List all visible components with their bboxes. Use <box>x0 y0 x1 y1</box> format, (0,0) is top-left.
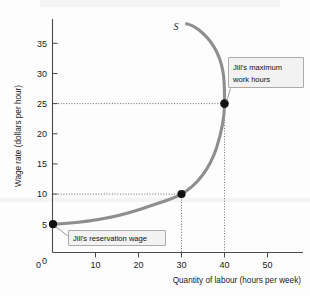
y-tick-label-5: 5 <box>42 220 47 230</box>
reservation-wage-callout: Jill's reservation wage <box>56 227 166 246</box>
reservation-wage-callout-line1: Jill's reservation wage <box>73 234 147 243</box>
maximum-work-hours-callout: Jill's maximum work hours <box>227 58 304 102</box>
y-tick-label-20: 20 <box>37 129 47 139</box>
x-tick-label-10: 10 <box>90 260 100 270</box>
labour-supply-curve <box>53 24 225 224</box>
x-tick-label-20: 20 <box>133 260 143 270</box>
y-tick-label-35: 35 <box>37 39 47 49</box>
y-tick-marks <box>53 43 58 224</box>
x-axis-title: Quantity of labour (hours per week) <box>173 276 302 285</box>
maximum-hours-point <box>220 99 229 108</box>
y-tick-label-30: 30 <box>37 69 47 79</box>
y-axis-title: Wage rate (dollars per hour) <box>14 85 23 187</box>
x-tick-label-0: 0 <box>36 260 41 270</box>
x-tick-label-30: 30 <box>176 260 186 270</box>
supply-curve-chart: 35 30 25 20 15 10 5 0 0 10 20 30 40 50 Q… <box>0 0 310 296</box>
y-tick-label-10: 10 <box>37 189 47 199</box>
maximum-hours-leader-line <box>227 89 231 102</box>
axes-group <box>53 19 304 253</box>
chart-canvas: 35 30 25 20 15 10 5 0 0 10 20 30 40 50 Q… <box>0 0 310 296</box>
x-tick-labels: 0 10 20 30 40 50 <box>36 260 273 270</box>
x-tick-label-50: 50 <box>262 260 272 270</box>
scan-artifact <box>40 0 280 7</box>
x-tick-label-40: 40 <box>219 260 229 270</box>
y-tick-labels: 35 30 25 20 15 10 5 0 <box>37 39 47 266</box>
y-tick-label-15: 15 <box>37 159 47 169</box>
y-tick-label-0: 0 <box>42 256 47 266</box>
x-tick-marks <box>96 253 268 258</box>
maximum-hours-callout-line2: work hours <box>232 75 270 84</box>
interior-point <box>177 190 185 198</box>
supply-curve-label: S <box>174 21 179 32</box>
y-tick-label-25: 25 <box>37 99 47 109</box>
maximum-hours-callout-line1: Jill's maximum <box>233 63 282 72</box>
